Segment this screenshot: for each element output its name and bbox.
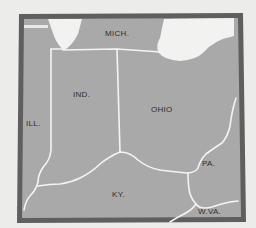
label-michigan: MICH.	[105, 30, 129, 38]
label-pennsylvania: PA.	[202, 160, 215, 168]
label-indiana: IND.	[73, 91, 90, 99]
land-area	[22, 18, 241, 218]
lake-michigan-shore	[24, 25, 48, 28]
label-west-virginia: W.VA.	[198, 208, 221, 216]
label-kentucky: KY.	[112, 191, 125, 199]
label-illinois: ILL.	[26, 120, 41, 128]
regional-map: MICH. IND. OHIO ILL. PA. KY. W.VA.	[0, 0, 256, 228]
label-ohio: OHIO	[151, 106, 173, 114]
